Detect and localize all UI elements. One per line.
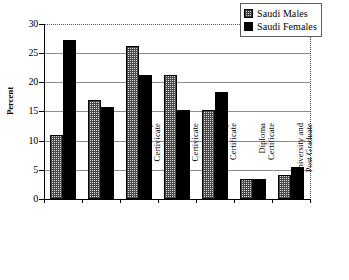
x-axis-label: Read and Write xyxy=(106,123,122,201)
x-axis-label: Illiterate xyxy=(68,123,84,201)
bar-male[interactable] xyxy=(240,179,253,199)
ytick-label-0: 0 xyxy=(2,194,38,204)
x-axis-label: Diploma Certificate xyxy=(258,123,274,201)
bar-chart: 30 25 20 15 10 5 0 Percent IlliterateRea… xyxy=(0,0,349,280)
ytick-label-30-wrap: 30 xyxy=(0,19,38,29)
ytick-label-5-wrap: 5 xyxy=(0,165,38,175)
bar-male[interactable] xyxy=(202,110,215,199)
ytick-label-30: 30 xyxy=(2,19,38,29)
solid-swatch-icon xyxy=(244,22,253,31)
checkered-swatch-icon xyxy=(244,9,253,18)
ytick-label-5: 5 xyxy=(2,165,38,175)
ytick-label-25-wrap: 25 xyxy=(0,48,38,58)
x-axis-label: Intermediate Certivicate xyxy=(182,123,198,201)
ytick-label-10: 10 xyxy=(2,136,38,146)
x-axis-label: Primary Certivicate xyxy=(144,123,160,201)
bar-male[interactable] xyxy=(50,135,63,199)
bar-male[interactable] xyxy=(278,175,291,200)
legend-label-saudi-males: Saudi Males xyxy=(257,8,308,19)
legend-label-saudi-females: Saudi Females xyxy=(257,21,317,32)
legend: Saudi Males Saudi Females xyxy=(240,3,322,37)
ytick-label-0-wrap: 0 xyxy=(0,194,38,204)
legend-item-saudi-males[interactable]: Saudi Males xyxy=(244,7,317,20)
legend-item-saudi-females[interactable]: Saudi Females xyxy=(244,20,317,33)
bar-male[interactable] xyxy=(88,100,101,199)
ytick-label-10-wrap: 10 xyxy=(0,136,38,146)
bar-male[interactable] xyxy=(164,75,177,199)
ytick-label-25: 25 xyxy=(2,48,38,58)
x-axis-label: University and Post Graduate xyxy=(296,123,312,201)
x-axis-label: Secondary Certificate xyxy=(220,123,236,201)
cropped-title-remnant xyxy=(120,0,240,8)
bar-male[interactable] xyxy=(126,46,139,199)
y-axis-title: Percent xyxy=(5,73,15,129)
x-axis-labels: IlliterateRead and WritePrimary Certivic… xyxy=(44,201,310,280)
